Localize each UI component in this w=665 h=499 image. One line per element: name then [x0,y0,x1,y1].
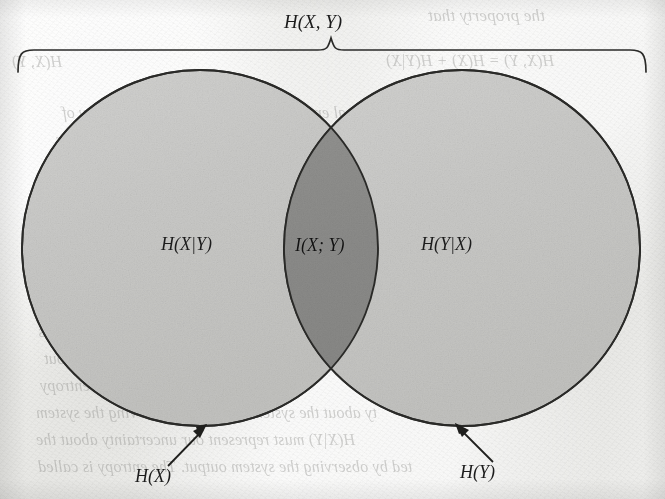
venn-diagram-graphic [0,0,665,499]
hy-callout-arrow [455,423,493,462]
scanned-figure-page: the property thatH(X, Y) = H(X) + H(Y|X)… [0,0,665,499]
top-brace [18,38,646,72]
hx-callout-arrow [168,424,207,466]
